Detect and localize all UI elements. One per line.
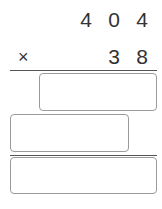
partial-product-2-input[interactable] [10,114,129,152]
partial-product-1-input[interactable] [39,73,157,111]
multiplier-digit-ones: 8 [135,46,149,67]
sum-divider-line [10,155,157,156]
final-product-input[interactable] [10,157,157,194]
divider-line [10,70,157,71]
multiplicand-digit-ones: 4 [135,9,149,30]
multiplicand-digit-tens: 0 [107,9,121,30]
multiplier-digit-tens: 3 [107,46,121,67]
multiplicand-digit-hundreds: 4 [79,9,93,30]
multiply-operator-icon: × [18,48,29,66]
